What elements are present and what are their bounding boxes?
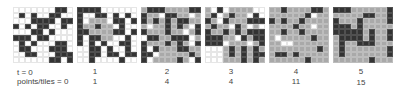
- time-value-5: 5: [331, 67, 391, 76]
- empty-tile: [131, 57, 137, 63]
- grid-panel-t0: [13, 7, 73, 63]
- grid-panel-t5: [333, 7, 393, 63]
- visited-tile: [323, 57, 329, 63]
- time-value-4: 4: [266, 67, 326, 76]
- points-value-2: 4: [137, 77, 197, 86]
- grid-panel-t2: [141, 7, 201, 63]
- obstacle-tile: [67, 57, 73, 63]
- time-value-2: 2: [137, 67, 197, 76]
- grid-panel-t3: [205, 7, 265, 63]
- tile-grid: [13, 7, 73, 63]
- grid-panel-t1: [77, 7, 137, 63]
- visited-tile: [259, 57, 265, 63]
- points-label: points/tiles = 0: [17, 77, 68, 86]
- tile-grid: [333, 7, 393, 63]
- grid-panel-t4: [269, 7, 329, 63]
- tile-grid: [205, 7, 265, 63]
- obstacle-tile: [195, 57, 201, 63]
- points-value-5: 15: [331, 78, 391, 87]
- tile-grid: [269, 7, 329, 63]
- points-value-1: 1: [65, 77, 125, 86]
- points-value-4: 11: [266, 77, 326, 86]
- time-label: t = 0: [17, 68, 33, 77]
- time-value-3: 3: [201, 67, 261, 76]
- tile-grid: [77, 7, 137, 63]
- tile-grid: [141, 7, 201, 63]
- time-value-1: 1: [65, 67, 125, 76]
- visited-tile: [387, 57, 393, 63]
- points-value-3: 4: [201, 77, 261, 86]
